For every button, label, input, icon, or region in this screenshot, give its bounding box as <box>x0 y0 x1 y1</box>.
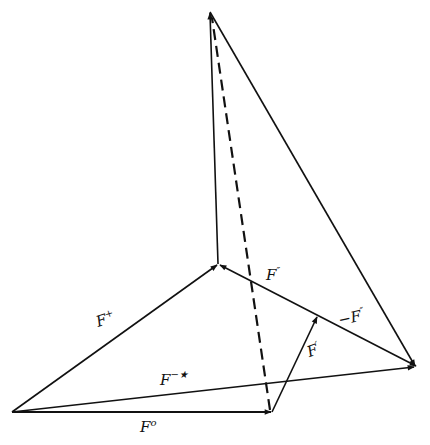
vector-diagram: Fo F+ F−★ F′ F″ −F″ <box>0 0 430 445</box>
label-neg-f-double-prime: −F″ <box>336 305 366 329</box>
label-f-prime: F′ <box>303 339 323 362</box>
vector-f-prime <box>272 317 317 412</box>
label-f-minus-star: F−★ <box>159 369 189 389</box>
dashed-line <box>212 18 270 410</box>
label-f-zero: Fo <box>139 417 156 436</box>
label-f-plus: F+ <box>92 307 117 331</box>
vector-f-minus-star <box>12 367 414 412</box>
label-f-double-prime: F″ <box>265 265 280 284</box>
vector-f-plus <box>12 265 217 412</box>
